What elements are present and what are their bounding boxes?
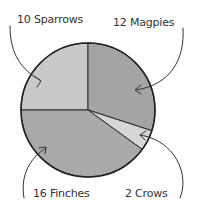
- pie-chart: [0, 0, 198, 209]
- label-magpies: 12 Magpies: [113, 16, 174, 29]
- label-sparrows: 10 Sparrows: [17, 13, 83, 26]
- slice-sparrows: [21, 43, 88, 110]
- label-crows: 2 Crows: [125, 187, 168, 200]
- label-finches: 16 Finches: [33, 187, 90, 200]
